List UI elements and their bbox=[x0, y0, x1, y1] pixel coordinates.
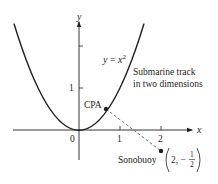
sonobuoy-coordinates: 2, − 1 2 bbox=[166, 148, 200, 172]
cpa-point bbox=[104, 107, 108, 111]
y-tick-label-1: 1 bbox=[69, 83, 74, 93]
origin-label: 0 bbox=[70, 134, 75, 144]
svg-text:2, −: 2, − bbox=[171, 155, 186, 165]
cpa-label: CPA bbox=[84, 100, 102, 110]
x-tick-label-1: 1 bbox=[117, 134, 122, 144]
curve-equation-label: y = x2 bbox=[102, 53, 127, 65]
sonobuoy-point bbox=[159, 149, 163, 153]
svg-text:1: 1 bbox=[190, 150, 194, 159]
track-label-line-1: Submarine track bbox=[133, 67, 196, 77]
sonobuoy-label: Sonobuoy bbox=[118, 155, 157, 165]
diagram-canvas: y x 0 1 2 1 y = x2 Submarine track in tw… bbox=[0, 0, 218, 184]
diagram-figure: y x 0 1 2 1 y = x2 Submarine track in tw… bbox=[0, 0, 218, 184]
x-tick-label-2: 2 bbox=[158, 134, 163, 144]
svg-text:2: 2 bbox=[190, 160, 194, 169]
track-label-line-2: in two dimensions bbox=[133, 79, 203, 89]
y-axis-label: y bbox=[76, 11, 82, 22]
x-axis-label: x bbox=[196, 124, 202, 135]
